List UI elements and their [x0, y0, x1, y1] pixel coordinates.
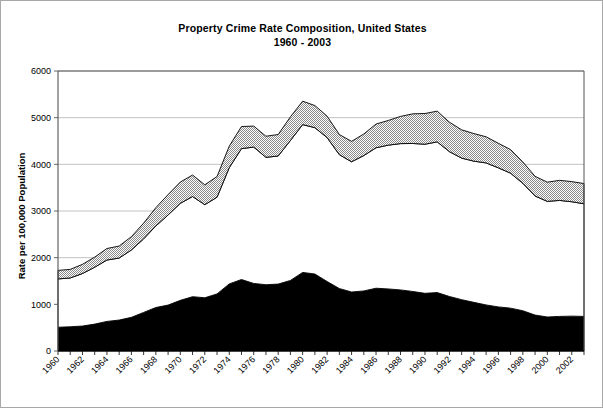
- area-bands: [58, 101, 584, 351]
- x-tick-label: 1986: [358, 354, 379, 375]
- x-tick-label: 1964: [89, 354, 110, 375]
- x-tick-label: 1970: [163, 354, 184, 375]
- x-tick-label: 1962: [65, 354, 86, 375]
- y-tick-label: 3000: [31, 206, 51, 216]
- x-tick-label: 1994: [456, 354, 477, 375]
- chart-svg: 0100020003000400050006000 19601962196419…: [1, 1, 603, 408]
- y-tick-label: 2000: [31, 253, 51, 263]
- x-tick-label: 1980: [285, 354, 306, 375]
- x-tick-label: 1998: [505, 354, 526, 375]
- x-tick-label: 1966: [114, 354, 135, 375]
- y-tick-label: 6000: [31, 66, 51, 76]
- x-tick-label: 1972: [187, 354, 208, 375]
- x-tick-marks: [58, 351, 584, 355]
- y-tick-label: 5000: [31, 113, 51, 123]
- y-tick-label: 1000: [31, 300, 51, 310]
- x-tick-label: 1984: [334, 354, 355, 375]
- x-tick-label: 1982: [309, 354, 330, 375]
- x-tick-label: 1978: [260, 354, 281, 375]
- x-tick-labels: 1960196219641966196819701972197419761978…: [40, 354, 575, 375]
- x-tick-label: 1974: [211, 354, 232, 375]
- y-tick-label: 0: [46, 346, 51, 356]
- x-tick-label: 1996: [481, 354, 502, 375]
- x-tick-label: 2000: [529, 354, 550, 375]
- x-tick-label: 1960: [40, 354, 61, 375]
- x-tick-label: 1992: [432, 354, 453, 375]
- y-tick-label: 4000: [31, 160, 51, 170]
- y-tick-labels: 0100020003000400050006000: [31, 66, 58, 356]
- x-tick-label: 1988: [383, 354, 404, 375]
- x-tick-label: 1976: [236, 354, 257, 375]
- x-tick-label: 1968: [138, 354, 159, 375]
- x-tick-label: 2002: [554, 354, 575, 375]
- y-axis-title: Rate per 100,000 Population: [16, 152, 27, 279]
- chart-figure: Property Crime Rate Composition, United …: [0, 0, 603, 408]
- x-tick-label: 1990: [407, 354, 428, 375]
